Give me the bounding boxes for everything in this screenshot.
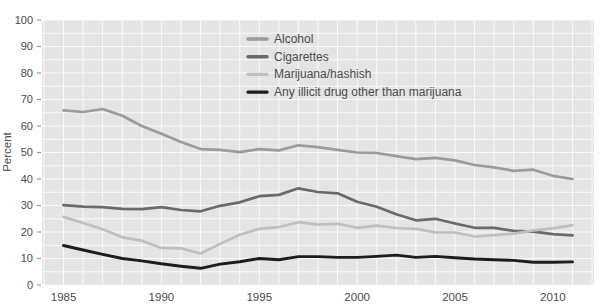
x-axis-tick-labels: 198519901995200020052010 — [51, 291, 566, 303]
y-tick-label: 0 — [27, 279, 33, 291]
x-tick-label: 2005 — [442, 291, 468, 303]
y-tick-label: 70 — [21, 93, 33, 105]
y-tick-label: 60 — [21, 120, 33, 132]
legend-item: Any illicit drug other than marijuana — [248, 85, 462, 99]
y-tick-label: 100 — [15, 14, 33, 26]
y-tick-label: 80 — [21, 67, 33, 79]
y-tick-label: 40 — [21, 173, 33, 185]
x-tick-label: 2000 — [344, 291, 370, 303]
line-chart-svg: Percent 01020304050607080901001985199019… — [0, 0, 600, 307]
y-tick-label: 20 — [21, 226, 33, 238]
legend-label-any-illicit-drug-other-than-marijuana: Any illicit drug other than marijuana — [274, 85, 462, 99]
x-tick-label: 1985 — [51, 291, 77, 303]
legend-label-cigarettes: Cigarettes — [274, 50, 329, 64]
y-axis-tick-labels: 0102030405060708090100 — [15, 14, 33, 291]
y-tick-label: 10 — [21, 252, 33, 264]
y-tick-label: 30 — [21, 199, 33, 211]
x-tick-label: 2010 — [540, 291, 566, 303]
legend-label-marijuana-hashish: Marijuana/hashish — [274, 67, 371, 81]
y-tick-label: 50 — [21, 146, 33, 158]
prevalence-trend-chart: Percent 01020304050607080901001985199019… — [0, 0, 600, 307]
x-tick-label: 1995 — [246, 291, 272, 303]
legend-label-alcohol: Alcohol — [274, 32, 313, 46]
y-tick-label: 90 — [21, 40, 33, 52]
x-tick-label: 1990 — [149, 291, 175, 303]
y-axis-ticks — [37, 20, 41, 285]
y-axis-title: Percent — [1, 131, 13, 171]
